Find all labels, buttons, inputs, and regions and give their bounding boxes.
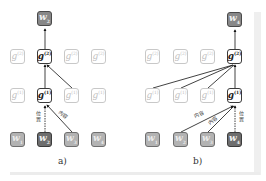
output-label: w xyxy=(39,12,47,22)
layer1-node-active: g(1) xyxy=(227,88,242,103)
layer2-node: g(2) xyxy=(91,49,106,64)
token-sub: 1 xyxy=(155,140,158,145)
layer1-node: g(1) xyxy=(145,88,160,103)
node-sup: (2) xyxy=(207,51,213,56)
node-sup: (1) xyxy=(180,90,186,95)
node-sup: (2) xyxy=(44,51,51,56)
node-sup: (1) xyxy=(71,90,77,95)
token-sub: 1 xyxy=(20,140,23,145)
node-sup: (2) xyxy=(234,51,241,56)
input-token-box-target: w4 xyxy=(227,132,242,147)
output-token-box: w4 xyxy=(227,12,242,27)
output-token-box: w2 xyxy=(37,11,52,26)
input-token-box: w3 xyxy=(200,132,215,147)
line-b-l1g2-to-l2g4 xyxy=(181,65,233,88)
output-label: w xyxy=(229,13,237,23)
token-sub: 4 xyxy=(237,140,240,145)
layer1-node: g(1) xyxy=(173,88,188,103)
layer2-node-active: g(2) xyxy=(227,49,242,64)
token-sub: 4 xyxy=(101,140,104,145)
layer2-node: g(2) xyxy=(10,49,25,64)
panel-a-caption: a) xyxy=(58,156,67,166)
node-sup: (1) xyxy=(234,90,241,95)
input-token-box: w1 xyxy=(10,132,25,147)
layer1-node-active: g(1) xyxy=(37,88,52,103)
token-sub: 2 xyxy=(183,140,186,145)
token-label: w xyxy=(66,133,74,143)
layer2-node: g(2) xyxy=(64,49,79,64)
node-sup: (1) xyxy=(98,90,104,95)
node-sup: (2) xyxy=(71,51,77,56)
token-label: w xyxy=(175,133,183,143)
node-sup: (2) xyxy=(152,51,158,56)
node-sup: (1) xyxy=(17,90,23,95)
output-subscript: 4 xyxy=(237,20,240,25)
position-label: 位置 xyxy=(238,110,244,122)
position-label: 位置 xyxy=(35,110,41,122)
layer2-node-active: g(2) xyxy=(37,49,52,64)
token-sub: 2 xyxy=(47,140,50,145)
layer1-node: g(1) xyxy=(91,88,106,103)
token-label: w xyxy=(202,133,210,143)
input-token-box-target: w2 xyxy=(37,132,52,147)
token-label: w xyxy=(147,133,155,143)
input-token-box: w1 xyxy=(145,132,160,147)
token-label: w xyxy=(93,133,101,143)
output-subscript: 2 xyxy=(47,19,50,24)
layer1-node: g(1) xyxy=(200,88,215,103)
input-token-box: w3 xyxy=(64,132,79,147)
input-token-box: w2 xyxy=(173,132,188,147)
node-sup: (1) xyxy=(44,90,51,95)
token-label: w xyxy=(229,133,237,143)
arrow-a-l1g3-to-l2g2 xyxy=(47,65,72,88)
layer2-node: g(2) xyxy=(145,49,160,64)
input-token-box: w4 xyxy=(91,132,106,147)
panel-b-caption: b) xyxy=(193,156,202,166)
layer1-node: g(1) xyxy=(64,88,79,103)
token-label: w xyxy=(12,133,20,143)
token-sub: 3 xyxy=(74,140,77,145)
layer1-node: g(1) xyxy=(10,88,25,103)
token-sub: 3 xyxy=(210,140,213,145)
node-sup: (2) xyxy=(98,51,104,56)
node-sup: (1) xyxy=(152,90,158,95)
node-sup: (2) xyxy=(180,51,186,56)
token-label: w xyxy=(39,133,47,143)
node-sup: (1) xyxy=(207,90,213,95)
arrow-b-content-w2 xyxy=(181,106,233,132)
layer2-node: g(2) xyxy=(173,49,188,64)
layer2-node: g(2) xyxy=(200,49,215,64)
node-sup: (2) xyxy=(17,51,23,56)
